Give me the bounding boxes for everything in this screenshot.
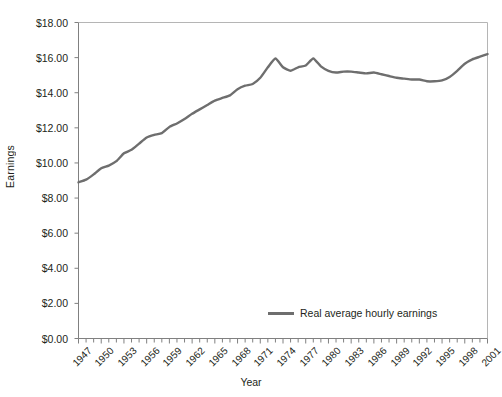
legend-label-real-average-hourly-earnings: Real average hourly earnings <box>300 307 437 319</box>
x-axis-title: Year <box>0 376 502 388</box>
x-axis-tick-labels: 1947195019531956195919621965196819711974… <box>0 0 502 397</box>
chart-figure: $0.00$2.00$4.00$6.00$8.00$10.00$12.00$14… <box>0 0 502 397</box>
chart-legend: Real average hourly earnings <box>268 307 437 319</box>
legend-line-swatch-real-average-hourly-earnings <box>268 312 294 315</box>
